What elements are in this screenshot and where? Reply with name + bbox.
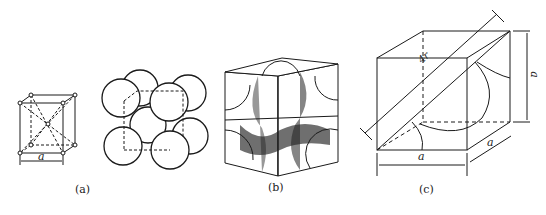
panel-c-width-label: a <box>418 150 425 163</box>
panel-b-caption: (b) <box>268 181 284 194</box>
panel-a-edge-label: a <box>38 150 45 163</box>
panel-c-height-label: a <box>528 71 541 78</box>
panel-c-caption: (c) <box>419 183 434 196</box>
diagonal-cube <box>360 10 530 176</box>
panel-c-depth-label: a <box>487 136 494 149</box>
bcc-lattice-cube <box>18 93 77 165</box>
bcc-sphere-model <box>102 70 208 169</box>
panel-a-caption: (a) <box>75 183 90 196</box>
cutaway-cube <box>225 58 338 176</box>
